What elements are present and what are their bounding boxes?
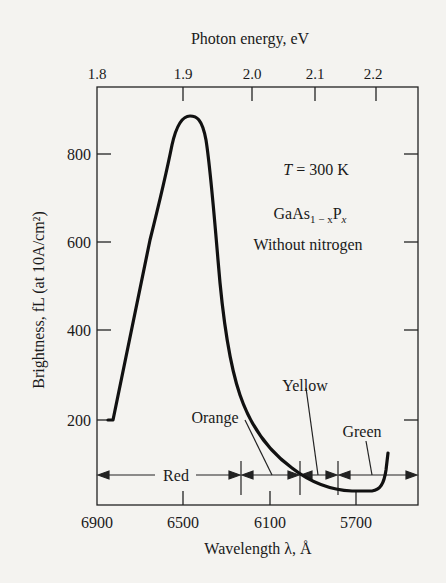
- band-label-red: Red: [163, 467, 189, 484]
- y-tick-label: 400: [67, 322, 91, 339]
- x-tick-label: 5700: [340, 514, 372, 531]
- x-tick-label: 6100: [254, 514, 286, 531]
- bottom-ticks: [183, 491, 356, 505]
- material-annotation: GaAs1 − xPx: [274, 205, 347, 225]
- y-tick-label: 800: [67, 146, 91, 163]
- band-label-orange: Orange: [191, 409, 238, 427]
- top-axis-label: Photon energy, eV: [191, 30, 310, 48]
- band-label-green: Green: [342, 423, 381, 440]
- y-axis-label: Brightness, fL (at 10A/cm²): [30, 211, 48, 389]
- top-tick-label: 1.9: [174, 66, 193, 82]
- top-tick-label: 1.8: [88, 66, 107, 82]
- color-band-bar: [98, 388, 417, 495]
- x-tick-label: 6900: [81, 514, 113, 531]
- band-label-yellow: Yellow: [282, 377, 328, 394]
- top-tick-label: 2.2: [364, 66, 383, 82]
- top-tick-label: 2.0: [243, 66, 262, 82]
- nitrogen-annotation: Without nitrogen: [253, 236, 362, 254]
- brightness-chart: Photon energy, eV 1.8 1.9 2.0 2.1 2.2 80…: [0, 0, 446, 583]
- top-tick-label: 2.1: [306, 66, 325, 82]
- top-ticks: [183, 87, 376, 101]
- x-tick-label: 6500: [167, 514, 199, 531]
- temperature-annotation: T = 300 K: [283, 161, 349, 178]
- y-tick-label: 600: [67, 234, 91, 251]
- right-ticks: [404, 154, 418, 420]
- left-ticks: [97, 154, 111, 420]
- x-axis-label: Wavelength λ, Å: [204, 540, 312, 558]
- plot-frame: [97, 87, 418, 505]
- y-tick-label: 200: [67, 412, 91, 429]
